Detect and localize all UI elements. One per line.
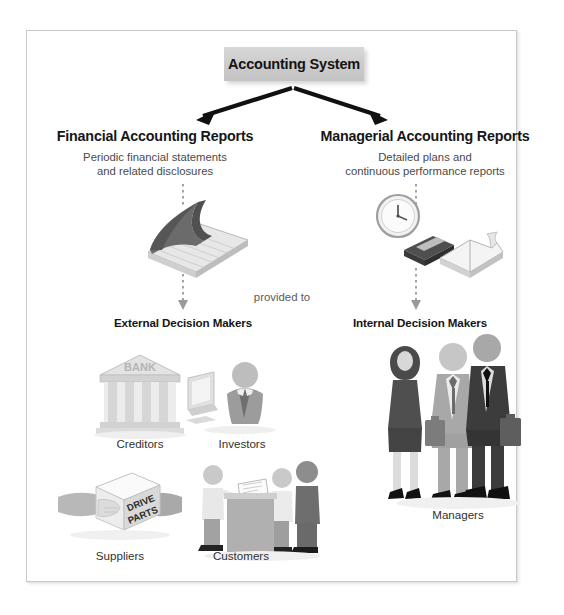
caption-customers: Customers: [186, 549, 296, 562]
caption-suppliers: Suppliers: [70, 549, 170, 562]
caption-creditors: Creditors: [90, 437, 190, 450]
manager-woman-figure: [388, 346, 422, 499]
three-business-people-icon: [0, 0, 564, 615]
diagram-canvas: Accounting System Financial Accounting R…: [0, 0, 564, 615]
caption-managers: Managers: [408, 508, 508, 521]
manager-man-right-figure: [464, 334, 521, 499]
caption-investors: Investors: [192, 437, 292, 450]
